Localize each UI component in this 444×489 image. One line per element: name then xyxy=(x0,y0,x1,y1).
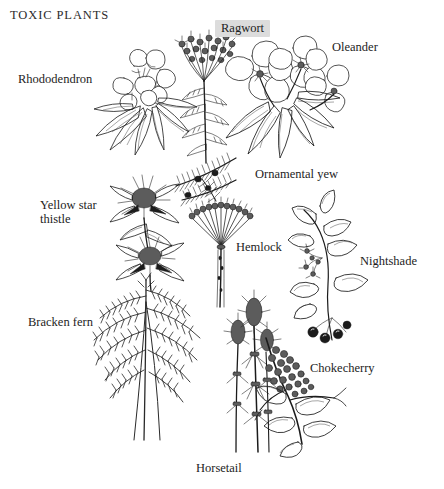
illustration-bracken-fern xyxy=(78,262,218,442)
label-horsetail: Horsetail xyxy=(196,461,242,475)
label-hemlock: Hemlock xyxy=(236,240,282,254)
label-oleander: Oleander xyxy=(332,40,378,54)
label-ragwort: Ragwort xyxy=(215,20,270,37)
toxic-plants-page: TOXIC PLANTS xyxy=(0,0,444,489)
label-bracken-fern: Bracken fern xyxy=(28,315,93,329)
illustration-oleander xyxy=(224,38,344,163)
illustration-chokecherry xyxy=(252,330,362,460)
label-chokecherry: Chokecherry xyxy=(310,361,375,375)
label-ornamental-yew: Ornamental yew xyxy=(255,167,338,181)
label-nightshade: Nightshade xyxy=(360,254,417,268)
label-rhododendron: Rhododendron xyxy=(18,72,92,86)
page-title: TOXIC PLANTS xyxy=(10,8,109,23)
label-yellow-star-thistle: Yellow star thistle xyxy=(40,198,97,226)
illustration-nightshade xyxy=(288,192,383,347)
